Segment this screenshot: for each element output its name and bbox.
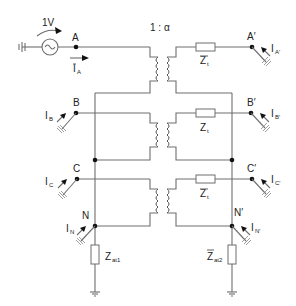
current-injection-n xyxy=(76,226,95,245)
svg-text:N′: N′ xyxy=(255,228,261,234)
svg-text:C: C xyxy=(73,163,80,174)
svg-text:N: N xyxy=(82,210,89,221)
impedance-zt-3 xyxy=(196,175,215,183)
svg-text:B′: B′ xyxy=(275,114,281,120)
impedance-zt-2 xyxy=(196,109,215,117)
svg-text:Z: Z xyxy=(207,251,213,262)
svg-text:I: I xyxy=(251,222,254,233)
svg-text:t: t xyxy=(207,61,209,67)
current-injection-a-prime xyxy=(252,47,271,66)
transformer-3-icon xyxy=(95,179,232,226)
circuit-diagram: 1V A I A 1 : α Z t A′ B Z t B′ xyxy=(0,0,296,306)
transformer-ratio-label: 1 : α xyxy=(150,22,170,33)
svg-text:A′: A′ xyxy=(275,49,281,55)
node-a xyxy=(74,45,79,50)
current-injection-c-prime xyxy=(252,179,271,198)
impedance-zat1 xyxy=(91,245,99,264)
current-injection-b-prime xyxy=(251,113,270,132)
ground-icon xyxy=(90,292,100,296)
svg-text:C′: C′ xyxy=(275,180,281,186)
svg-text:at1: at1 xyxy=(112,257,121,263)
svg-text:Z: Z xyxy=(200,55,206,66)
source-voltage-label: 1V xyxy=(42,17,55,28)
svg-text:A: A xyxy=(77,69,81,75)
svg-text:at2: at2 xyxy=(214,257,223,263)
ground-icon xyxy=(227,292,237,296)
svg-text:Z: Z xyxy=(200,188,206,199)
svg-text:I: I xyxy=(45,176,48,187)
svg-text:t: t xyxy=(207,128,209,134)
ac-source-icon xyxy=(42,39,58,55)
current-injection-c xyxy=(58,179,77,199)
svg-text:B′: B′ xyxy=(247,97,256,108)
current-arrow-icon xyxy=(82,55,89,61)
transformer-1-icon xyxy=(95,47,232,93)
svg-text:I: I xyxy=(271,108,274,119)
svg-text:Z: Z xyxy=(105,251,111,262)
junction-right-mid xyxy=(230,158,235,163)
current-injection-n-prime xyxy=(232,226,251,245)
svg-text:I: I xyxy=(271,174,274,185)
svg-text:B: B xyxy=(49,116,53,122)
svg-text:t: t xyxy=(207,194,209,200)
svg-text:B: B xyxy=(73,97,80,108)
svg-text:I: I xyxy=(271,43,274,54)
current-injection-b xyxy=(57,113,76,133)
node-a-label: A xyxy=(72,32,79,43)
svg-text:C′: C′ xyxy=(247,163,256,174)
svg-text:I: I xyxy=(66,223,69,234)
svg-text:A′: A′ xyxy=(247,31,256,42)
transformer-2-icon xyxy=(95,113,232,160)
svg-text:N: N xyxy=(70,229,74,235)
svg-text:Z: Z xyxy=(200,122,206,133)
svg-text:I: I xyxy=(45,110,48,121)
current-ia-label: I xyxy=(73,63,76,74)
junction-left-mid xyxy=(93,158,98,163)
impedance-zat2 xyxy=(228,245,236,264)
svg-text:N′: N′ xyxy=(234,207,243,218)
impedance-zt-1 xyxy=(196,43,215,51)
svg-text:C: C xyxy=(49,182,54,188)
